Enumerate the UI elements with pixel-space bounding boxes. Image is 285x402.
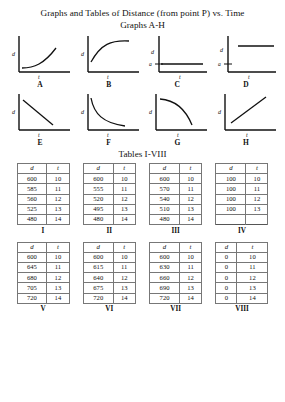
table-row: 57011 xyxy=(150,184,202,194)
table-cell: 11 xyxy=(237,263,268,273)
table-cell: 14 xyxy=(47,214,69,224)
svg-text:t: t xyxy=(38,132,40,138)
table-row: 52012 xyxy=(83,194,135,204)
table-cell: 600 xyxy=(83,252,113,262)
table-cell: 600 xyxy=(17,252,47,262)
table-row: 58511 xyxy=(17,184,69,194)
table-row: 70513 xyxy=(17,283,69,293)
table-cell: 0 xyxy=(216,252,237,262)
column-header-t: t xyxy=(113,164,135,174)
table-cell: 600 xyxy=(150,252,180,262)
table-cell: 720 xyxy=(17,293,47,303)
graph-H-plot: d t xyxy=(214,92,278,139)
table-cell: 11 xyxy=(113,263,135,273)
svg-text:d: d xyxy=(218,109,222,115)
table-cell: 13 xyxy=(237,283,268,293)
table-cell: 12 xyxy=(179,273,201,283)
table-cell: 100 xyxy=(216,194,246,204)
table-cell: 705 xyxy=(17,283,47,293)
table-label-V: V xyxy=(40,305,45,314)
table-row: 10012 xyxy=(216,194,268,204)
table-cell: 540 xyxy=(150,194,180,204)
table-cell: 12 xyxy=(237,273,268,283)
table-cell: 12 xyxy=(47,194,69,204)
tables-row-1: dt6001058511560125251348014Idt6001055511… xyxy=(0,163,285,236)
table-row: 63011 xyxy=(150,263,202,273)
table-header-row: dt xyxy=(216,242,268,252)
table-cell: 10 xyxy=(113,252,135,262)
column-header-t: t xyxy=(47,164,69,174)
table-VIII: dt010011012013014VIII xyxy=(213,242,271,315)
graph-G-label: G xyxy=(174,139,180,147)
table-III: dt6001057011540125101348014III xyxy=(147,163,205,236)
table-row: 56012 xyxy=(17,194,69,204)
table-V: dt6001064511680127051372014V xyxy=(14,242,72,315)
table-cell: 11 xyxy=(47,263,69,273)
table-II: dt6001055511520124951348014II xyxy=(80,163,138,236)
table-cell: 640 xyxy=(83,273,113,283)
table-header-row: dt xyxy=(83,164,135,174)
graphs-section-heading: Graphs A-H xyxy=(0,20,285,31)
table-row: 54012 xyxy=(150,194,202,204)
graph-G-plot: d t xyxy=(145,92,209,139)
column-header-t: t xyxy=(47,242,69,252)
graph-F-label: F xyxy=(106,139,111,147)
table-cell: 11 xyxy=(113,184,135,194)
data-table: dt6001064511680127051372014 xyxy=(17,242,70,304)
table-header-row: dt xyxy=(17,242,69,252)
svg-text:d: d xyxy=(149,109,153,115)
graph-B-plot: d t xyxy=(77,34,141,81)
svg-text:a: a xyxy=(218,61,221,67)
table-cell: 13 xyxy=(179,204,201,214)
data-table: dt6001057011540125101348014 xyxy=(149,163,202,225)
table-label-VIII: VIII xyxy=(235,305,249,314)
table-cell: 12 xyxy=(47,273,69,283)
column-header-d: d xyxy=(17,242,47,252)
table-cell: 600 xyxy=(83,174,113,184)
table-row: 10010 xyxy=(216,174,268,184)
table-cell: 510 xyxy=(150,204,180,214)
table-header-row: dt xyxy=(17,164,69,174)
data-table: dt6001061511640126751372014 xyxy=(83,242,136,304)
column-header-d: d xyxy=(216,164,246,174)
table-cell: 10 xyxy=(179,174,201,184)
table-header-row: dt xyxy=(150,242,202,252)
table-cell: 480 xyxy=(83,214,113,224)
table-cell: 560 xyxy=(17,194,47,204)
table-cell: 495 xyxy=(83,204,113,214)
table-cell: 480 xyxy=(17,214,47,224)
table-cell: 13 xyxy=(113,283,135,293)
column-header-t: t xyxy=(237,242,268,252)
table-cell: 12 xyxy=(113,194,135,204)
table-cell: 10 xyxy=(246,174,268,184)
table-label-VII: VII xyxy=(170,305,181,314)
table-row: 60010 xyxy=(83,174,135,184)
svg-text:t: t xyxy=(179,74,181,80)
data-table: dt6001058511560125251348014 xyxy=(17,163,70,225)
column-header-t: t xyxy=(179,242,201,252)
table-row: 49513 xyxy=(83,204,135,214)
table-cell: 12 xyxy=(113,273,135,283)
svg-text:t: t xyxy=(107,74,109,80)
table-row: 014 xyxy=(216,293,268,303)
table-VI: dt6001061511640126751372014VI xyxy=(80,242,138,315)
graph-E-plot: d t xyxy=(8,92,72,139)
table-cell: 11 xyxy=(179,184,201,194)
table-cell: 520 xyxy=(83,194,113,204)
graph-A-label: A xyxy=(37,81,42,89)
table-row: 52513 xyxy=(17,204,69,214)
svg-text:t: t xyxy=(248,74,250,80)
table-row: 72014 xyxy=(150,293,202,303)
table-cell: 14 xyxy=(113,293,135,303)
table-row: 10011 xyxy=(216,184,268,194)
table-cell: 100 xyxy=(216,184,246,194)
data-table: dt6001055511520124951348014 xyxy=(83,163,136,225)
table-cell: 555 xyxy=(83,184,113,194)
table-row: 64012 xyxy=(83,273,135,283)
table-cell: 13 xyxy=(246,204,268,214)
graph-E: d t E xyxy=(8,92,72,147)
table-row: 60010 xyxy=(150,174,202,184)
table-cell: 10 xyxy=(47,252,69,262)
table-cell: 11 xyxy=(179,263,201,273)
table-cell: 14 xyxy=(47,293,69,303)
